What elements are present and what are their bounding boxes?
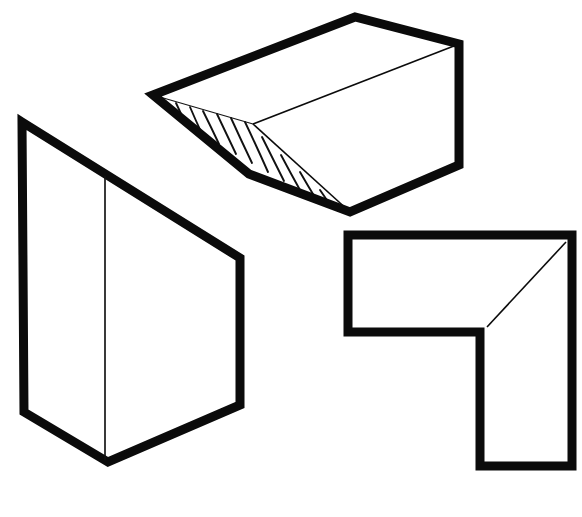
shape-top-wedge-block — [153, 17, 459, 212]
figure-canvas — [0, 0, 582, 517]
shape-right-l-block — [348, 235, 572, 466]
line-drawing-svg — [0, 0, 582, 517]
left-block-face-fill — [22, 122, 240, 462]
l-block-face-fill — [348, 235, 572, 466]
shape-left-angled-block — [22, 122, 240, 462]
